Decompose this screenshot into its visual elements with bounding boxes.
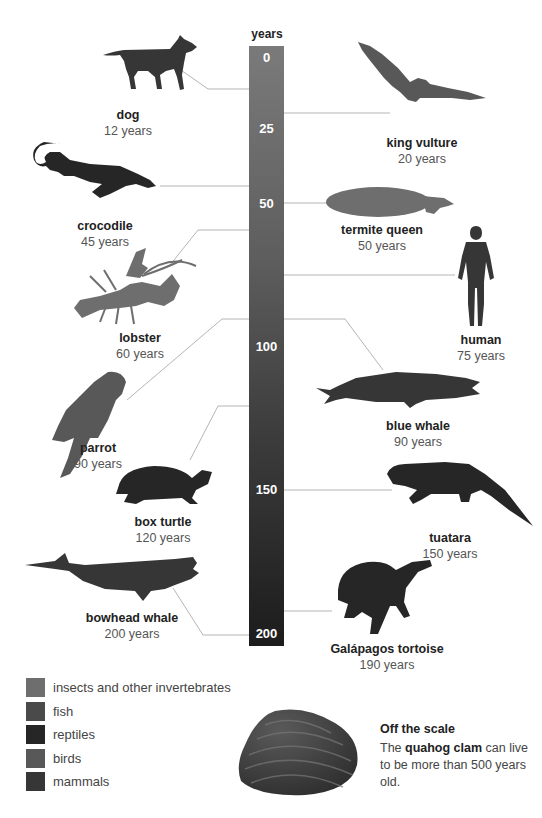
legend-item-birds: birds [26, 747, 231, 771]
tick-50: 50 [249, 197, 284, 211]
human-icon [456, 226, 496, 328]
termite-queen-icon [326, 186, 458, 220]
animal-name: termite queen [341, 222, 423, 238]
legend: insects and other invertebrates fish rep… [26, 676, 231, 794]
legend-item-mammals: mammals [26, 770, 231, 794]
animal-age: 20 years [387, 151, 458, 167]
animal-name: parrot [74, 440, 122, 456]
legend-label: insects and other invertebrates [53, 680, 231, 695]
animal-age: 75 years [457, 348, 505, 364]
lifespan-scale-bar: 0 25 50 100 150 200 [249, 46, 284, 646]
quahog-clam-icon [235, 705, 365, 797]
animal-age: 190 years [330, 657, 443, 673]
animal-age: 60 years [116, 346, 164, 362]
tuatara-icon [385, 460, 537, 528]
off-the-scale-note: Off the scale The quahog clam can live t… [380, 722, 530, 791]
king-vulture-icon [358, 40, 488, 102]
legend-item-reptiles: reptiles [26, 723, 231, 747]
off-the-scale-title: Off the scale [380, 722, 530, 736]
label-termite-queen: termite queen 50 years [341, 222, 423, 254]
box-turtle-icon [114, 462, 216, 506]
label-king-vulture: king vulture 20 years [387, 135, 458, 167]
animal-name: tuatara [423, 530, 478, 546]
animal-age: 200 years [86, 626, 178, 642]
lobster-icon [70, 246, 200, 326]
animal-name: Galápagos tortoise [330, 641, 443, 657]
animal-name: king vulture [387, 135, 458, 151]
animal-name: box turtle [135, 514, 192, 530]
label-lobster: lobster 60 years [116, 330, 164, 362]
tick-100: 100 [249, 340, 284, 354]
blue-whale-icon [316, 368, 482, 410]
legend-item-fish: fish [26, 700, 231, 724]
crocodile-icon [30, 140, 160, 200]
tick-0: 0 [249, 51, 284, 65]
swatch-birds [26, 749, 45, 768]
connector-blue-whale [284, 319, 383, 370]
galapagos-tortoise-icon [334, 558, 436, 636]
connector-box-turtle [190, 406, 249, 460]
animal-age: 12 years [104, 123, 152, 139]
label-box-turtle: box turtle 120 years [135, 514, 192, 546]
axis-label: years [232, 27, 302, 41]
animal-name: lobster [116, 330, 164, 346]
legend-item-insects: insects and other invertebrates [26, 676, 231, 700]
label-bowhead-whale: bowhead whale 200 years [86, 610, 178, 642]
label-dog: dog 12 years [104, 107, 152, 139]
legend-label: reptiles [53, 727, 95, 742]
swatch-mammals [26, 772, 45, 791]
dog-icon [100, 33, 200, 95]
quahog-clam-name: quahog clam [405, 741, 482, 755]
legend-label: mammals [53, 774, 109, 789]
legend-label: birds [53, 751, 81, 766]
swatch-reptiles [26, 725, 45, 744]
tick-200: 200 [249, 627, 284, 641]
swatch-fish [26, 702, 45, 721]
bowhead-whale-icon [25, 551, 201, 603]
animal-name: crocodile [77, 218, 133, 234]
label-blue-whale: blue whale 90 years [386, 418, 450, 450]
swatch-insects [26, 678, 45, 697]
tick-150: 150 [249, 483, 284, 497]
animal-name: blue whale [386, 418, 450, 434]
off-the-scale-text: The quahog clam can live to be more than… [380, 740, 530, 791]
label-galapagos-tortoise: Galápagos tortoise 190 years [330, 641, 443, 673]
legend-label: fish [53, 704, 73, 719]
label-human: human 75 years [457, 332, 505, 364]
animal-age: 120 years [135, 530, 192, 546]
animal-name: dog [104, 107, 152, 123]
animal-age: 50 years [341, 238, 423, 254]
animal-name: human [457, 332, 505, 348]
tick-25: 25 [249, 122, 284, 136]
text-part: The [380, 741, 405, 755]
animal-name: bowhead whale [86, 610, 178, 626]
animal-age: 90 years [386, 434, 450, 450]
